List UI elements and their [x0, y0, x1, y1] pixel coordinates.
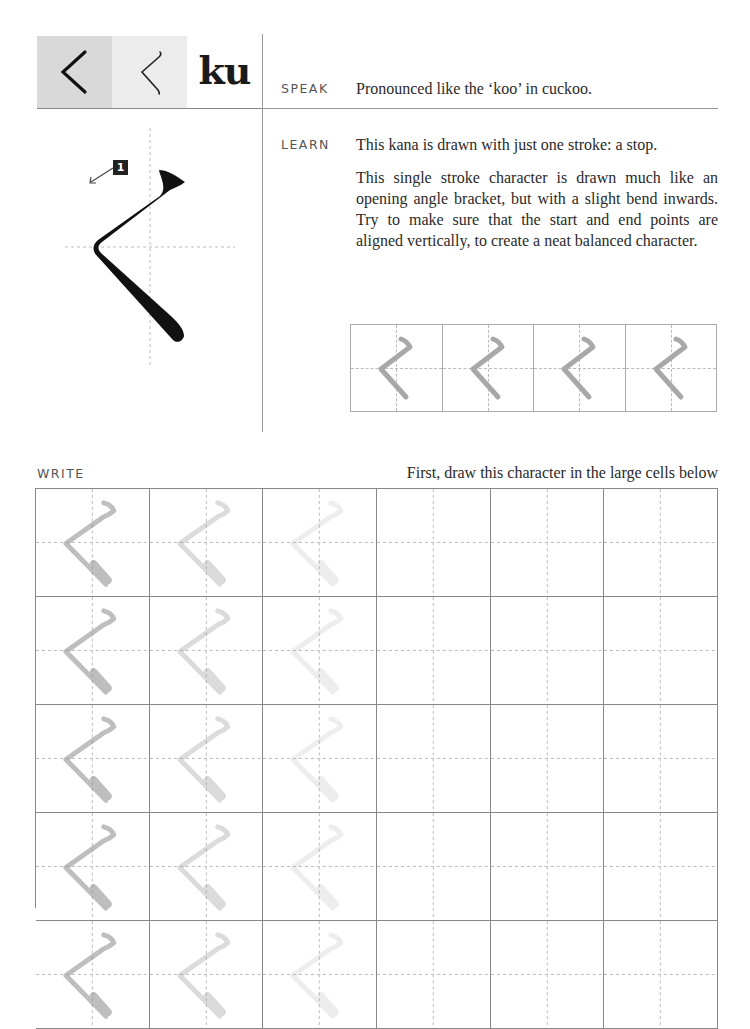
trace-guide [66, 827, 114, 908]
romaji-tile: ku [187, 36, 262, 108]
trace-guide [66, 719, 114, 800]
writing-cell[interactable] [263, 597, 377, 705]
trace-guide [293, 503, 341, 584]
trace-guide [180, 935, 228, 1016]
writing-cell[interactable] [377, 597, 491, 705]
writing-cell[interactable] [150, 597, 264, 705]
writing-cell[interactable] [491, 921, 605, 1029]
writing-grid [35, 488, 718, 908]
kana-ku-script-glyph [130, 48, 170, 96]
writing-cell[interactable] [604, 597, 718, 705]
writing-cell[interactable] [377, 921, 491, 1029]
writing-cell[interactable] [263, 489, 377, 597]
learn-paragraph-1: This kana is drawn with just one stroke:… [356, 134, 718, 155]
practice-cell [626, 325, 717, 411]
header-underline [37, 108, 263, 109]
trace-guide [180, 611, 228, 692]
trace-guide [293, 611, 341, 692]
writing-cell[interactable] [377, 705, 491, 813]
kana-script-tile [112, 36, 187, 108]
write-label: WRITE [37, 466, 85, 481]
kana-print-tile [37, 36, 112, 108]
romaji-label: ku [199, 48, 251, 93]
writing-cell[interactable] [263, 813, 377, 921]
speak-label: SPEAK [281, 81, 329, 96]
practice-cell [351, 325, 443, 411]
trace-guide [180, 827, 228, 908]
trace-guide [180, 503, 228, 584]
arrow-down-left-icon [86, 166, 116, 190]
writing-cell[interactable] [604, 921, 718, 1029]
writing-cell[interactable] [36, 921, 150, 1029]
writing-cell[interactable] [150, 489, 264, 597]
write-instruction: First, draw this character in the large … [407, 462, 718, 483]
writing-cell[interactable] [150, 921, 264, 1029]
writing-cell[interactable] [36, 489, 150, 597]
trace-guide [180, 719, 228, 800]
writing-cell[interactable] [604, 813, 718, 921]
trace-guide [66, 503, 114, 584]
kana-ku-stroke [94, 170, 186, 342]
practice-strip [350, 324, 717, 412]
writing-cell[interactable] [36, 813, 150, 921]
trace-guide [293, 935, 341, 1016]
vertical-divider [262, 34, 263, 432]
speak-text: Pronounced like the ‘koo’ in cuckoo. [356, 78, 718, 99]
trace-guide [66, 935, 114, 1016]
learn-label: LEARN [281, 137, 330, 152]
writing-cell[interactable] [491, 489, 605, 597]
stroke-order-diagram [60, 120, 240, 380]
writing-cell[interactable] [604, 489, 718, 597]
writing-cell[interactable] [263, 705, 377, 813]
speak-divider [262, 108, 718, 109]
writing-cell[interactable] [491, 705, 605, 813]
writing-cell[interactable] [263, 921, 377, 1029]
writing-cell[interactable] [377, 489, 491, 597]
writing-cell[interactable] [36, 705, 150, 813]
writing-cell[interactable] [377, 813, 491, 921]
learn-paragraph-2: This single stroke character is drawn mu… [356, 167, 718, 251]
writing-cell[interactable] [150, 813, 264, 921]
writing-cell[interactable] [491, 813, 605, 921]
writing-cell[interactable] [150, 705, 264, 813]
trace-guide [293, 827, 341, 908]
writing-cell[interactable] [604, 705, 718, 813]
writing-cell[interactable] [491, 597, 605, 705]
practice-cell [534, 325, 626, 411]
kana-ku-print-glyph [55, 48, 95, 96]
trace-guide [293, 719, 341, 800]
writing-cell[interactable] [36, 597, 150, 705]
practice-cell [443, 325, 535, 411]
trace-guide [66, 611, 114, 692]
